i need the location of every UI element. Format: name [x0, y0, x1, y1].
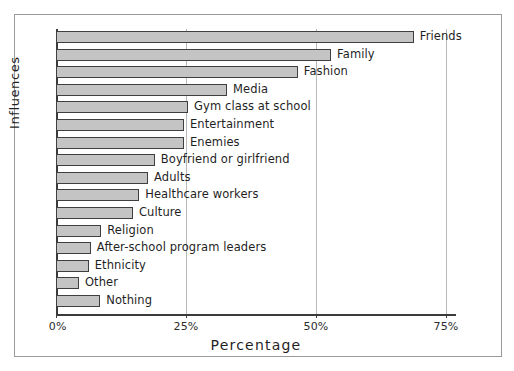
bar-label: Gym class at school: [194, 99, 311, 113]
bar-label: Boyfriend or girlfriend: [161, 152, 290, 166]
bar-label: Other: [85, 275, 118, 289]
bar-label: Culture: [139, 205, 182, 219]
bar[interactable]: [56, 49, 331, 61]
x-tick-label-50: 50%: [303, 320, 328, 333]
bar[interactable]: [56, 66, 298, 78]
bar[interactable]: [56, 31, 414, 43]
bar[interactable]: [56, 295, 100, 307]
bar[interactable]: [56, 242, 91, 254]
gridline-75: [446, 29, 447, 314]
chart-frame: Influences 0% 25% 50% 75% FriendsFamilyF…: [14, 14, 502, 357]
bar-label: Enemies: [190, 135, 240, 149]
bar[interactable]: [56, 225, 101, 237]
bar[interactable]: [56, 137, 184, 149]
x-tick-label-25: 25%: [173, 320, 198, 333]
x-tick-75: [446, 314, 447, 318]
x-tick-0: [56, 314, 57, 318]
x-tick-label-75: 75%: [433, 320, 458, 333]
x-axis-line: [56, 314, 456, 316]
bar[interactable]: [56, 189, 139, 201]
bar-label: Nothing: [106, 293, 152, 307]
bar-label: Friends: [420, 29, 462, 43]
bar-label: Ethnicity: [95, 258, 146, 272]
bar-label: After-school program leaders: [97, 240, 267, 254]
y-axis-title: Influences: [7, 56, 22, 129]
bar[interactable]: [56, 260, 89, 272]
bar[interactable]: [56, 172, 148, 184]
bar-label: Adults: [154, 170, 191, 184]
x-axis-title: Percentage: [56, 337, 456, 353]
bar-label: Entertainment: [190, 117, 274, 131]
x-tick-label-0: 0%: [49, 320, 67, 333]
x-tick-25: [186, 314, 187, 318]
bar[interactable]: [56, 154, 155, 166]
bar-label: Religion: [107, 223, 154, 237]
x-tick-50: [316, 314, 317, 318]
bar[interactable]: [56, 207, 133, 219]
bar[interactable]: [56, 84, 227, 96]
bar-label: Family: [337, 47, 375, 61]
bar[interactable]: [56, 119, 184, 131]
bar[interactable]: [56, 277, 79, 289]
bar-label: Fashion: [304, 64, 348, 78]
bar-label: Media: [233, 82, 268, 96]
bar-label: Healthcare workers: [145, 187, 258, 201]
bar[interactable]: [56, 101, 188, 113]
